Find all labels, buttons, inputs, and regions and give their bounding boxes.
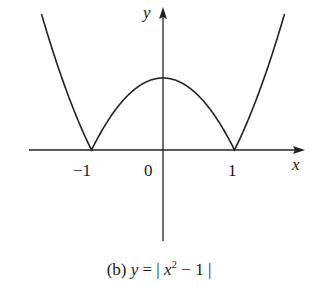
tick-label-neg1: −1 xyxy=(73,162,91,179)
tick-label-0: 0 xyxy=(144,162,153,179)
figure-caption: (b) y = | x2 − 1 | xyxy=(0,258,318,280)
x-axis-label: x xyxy=(292,156,300,173)
y-axis-label: y xyxy=(143,4,151,21)
plot-area xyxy=(0,0,318,287)
tick-label-1: 1 xyxy=(228,162,237,179)
